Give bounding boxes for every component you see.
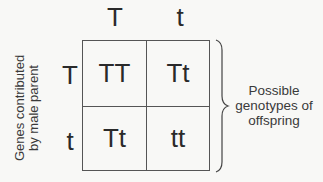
genotype-cell: Tt: [146, 41, 209, 106]
brace-label: Possible genotypes of offspring: [228, 83, 320, 128]
column-allele-label: T: [95, 4, 135, 30]
column-allele-label: t: [160, 4, 200, 30]
genotype-cell: TT: [83, 41, 146, 106]
row-axis-label-line: by male parent: [28, 55, 42, 161]
brace-label-line: Possible: [228, 83, 320, 98]
row-allele-label: T: [58, 62, 82, 88]
genotype-cell: Tt: [83, 106, 146, 171]
brace-label-line: offspring: [228, 113, 320, 128]
genotype-cell: tt: [146, 106, 209, 171]
row-allele-label: t: [58, 128, 82, 154]
row-axis-label: Genes contributed by male parent: [15, 50, 40, 166]
punnett-square: TT Tt Tt tt: [82, 40, 210, 171]
brace-label-line: genotypes of: [228, 98, 320, 113]
